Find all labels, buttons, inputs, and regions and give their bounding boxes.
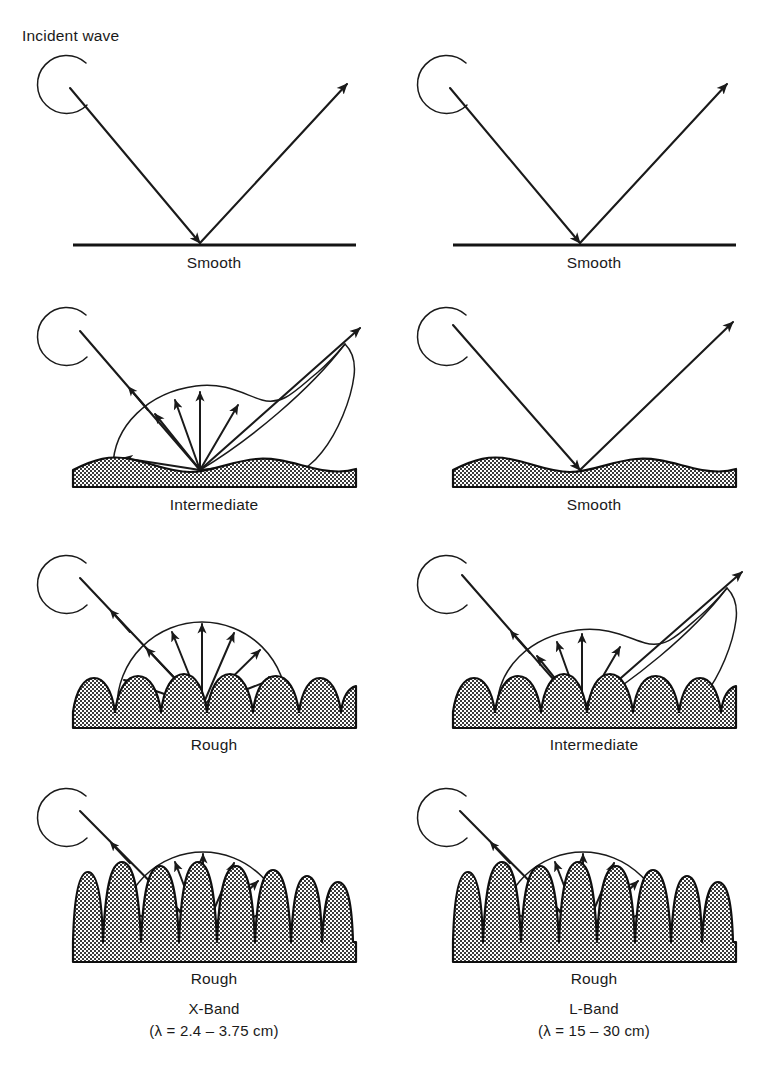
- panel-label: Intermediate: [550, 736, 639, 753]
- incident-wave-label: Incident wave: [22, 27, 119, 44]
- panel-label: Smooth: [567, 254, 622, 271]
- wavelength-label-x: (λ = 2.4 – 3.75 cm): [149, 1022, 278, 1039]
- panel-label: Rough: [571, 970, 618, 987]
- panel-label: Intermediate: [170, 496, 259, 513]
- scattering-diagram: Incident wave Smooth Smooth I: [0, 0, 775, 1066]
- band-label-l: L-Band: [569, 1000, 619, 1017]
- wavelength-label-l: (λ = 15 – 30 cm): [538, 1022, 650, 1039]
- panel-label: Smooth: [567, 496, 622, 513]
- panel-label: Rough: [191, 970, 238, 987]
- band-label-x: X-Band: [188, 1000, 239, 1017]
- panel-label: Smooth: [187, 254, 242, 271]
- panel-label: Rough: [191, 736, 238, 753]
